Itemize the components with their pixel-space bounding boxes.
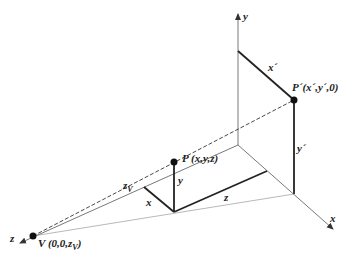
x-label: x	[146, 197, 152, 208]
point-p	[171, 159, 178, 166]
z-axis-label: z	[10, 233, 14, 244]
perspective-projection-diagram: y x z x´ P´(x´,y´,0) y´ P (x,y,z) y x z …	[0, 0, 355, 263]
zv-label: zV	[123, 180, 133, 194]
y-prime-label: y´	[297, 143, 306, 154]
ground-projection-line	[33, 194, 294, 236]
point-v	[30, 233, 37, 240]
x-axis-label: x	[330, 213, 336, 224]
projection-ray	[33, 100, 294, 236]
x-axis	[238, 145, 333, 229]
x-prime-label: x´	[268, 62, 277, 73]
y-label: y	[178, 175, 183, 186]
y-axis-label: y	[243, 11, 248, 22]
p-prime-label: P´(x´,y´,0)	[292, 82, 338, 93]
x-prime-segment	[238, 51, 294, 100]
point-p-prime	[291, 97, 298, 104]
z-label: z	[224, 192, 228, 203]
v-label: V (0,0,zV)	[38, 238, 81, 252]
p-label: P (x,y,z)	[182, 153, 218, 164]
diagram-graphics	[0, 0, 355, 263]
